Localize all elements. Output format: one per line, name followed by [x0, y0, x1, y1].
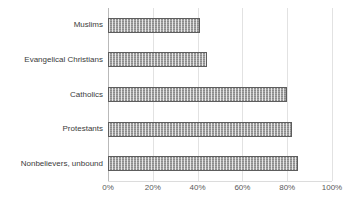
bar-evangelical-christians [108, 52, 207, 67]
x-tick-label: 80% [279, 183, 295, 193]
category-label-catholics: Catholics [70, 90, 103, 100]
gridline-100pct [332, 8, 333, 181]
category-label-protestants: Protestants [63, 124, 103, 134]
bar-catholics [108, 87, 287, 102]
category-axis-labels: Muslims Evangelical Christians Catholics… [0, 8, 103, 181]
bars [108, 8, 332, 181]
x-axis-tick-labels: 0%20%40%60%80%100% [108, 183, 332, 199]
x-tick-label: 0% [102, 183, 114, 193]
bar-row [108, 122, 332, 137]
bar-row [108, 18, 332, 33]
x-axis-line [108, 181, 332, 182]
bar-chart: Muslims Evangelical Christians Catholics… [0, 0, 359, 210]
bar-muslims [108, 18, 200, 33]
bar-protestants [108, 122, 292, 137]
x-tick-label: 100% [322, 183, 342, 193]
x-tick-label: 40% [190, 183, 206, 193]
x-tick-label: 20% [145, 183, 161, 193]
category-label-evangelical-christians: Evangelical Christians [24, 55, 103, 65]
bar-nonbelievers-unbound [108, 156, 298, 171]
x-tick-label: 60% [234, 183, 250, 193]
bar-row [108, 52, 332, 67]
bar-row [108, 87, 332, 102]
category-label-nonbelievers-unbound: Nonbelievers, unbound [21, 159, 103, 169]
bar-row [108, 156, 332, 171]
category-label-muslims: Muslims [74, 20, 103, 30]
plot-area [108, 8, 332, 181]
